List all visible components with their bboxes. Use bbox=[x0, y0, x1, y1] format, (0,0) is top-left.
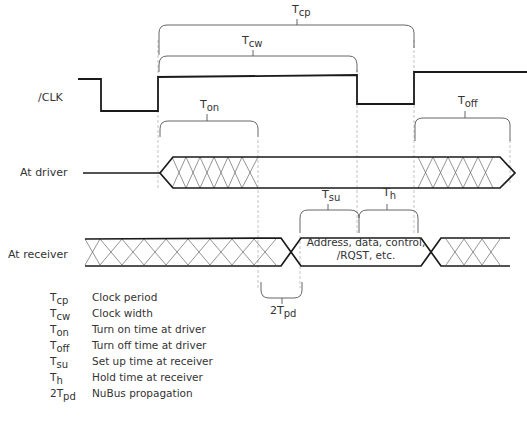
legend-desc: Clock period bbox=[92, 291, 157, 303]
legend-row: TsuSet up time at receiver bbox=[50, 355, 213, 371]
legend-row: TcwClock width bbox=[50, 307, 213, 323]
tcw-brace bbox=[159, 56, 357, 72]
tcp-brace bbox=[159, 25, 414, 55]
tpd-brace bbox=[261, 282, 302, 298]
legend-desc: Turn on time at driver bbox=[92, 323, 206, 335]
signal-label-receiver: At receiver bbox=[8, 248, 68, 261]
label-tsu: Tsu bbox=[322, 188, 340, 201]
legend-row: TonTurn on time at driver bbox=[50, 323, 213, 339]
driver-bus bbox=[160, 157, 515, 188]
legend-desc: Hold time at receiver bbox=[92, 371, 203, 383]
legend-desc: Turn off time at driver bbox=[92, 339, 206, 351]
legend: TcpClock period TcwClock width TonTurn o… bbox=[50, 291, 213, 403]
bus-data-label: Address, data, control, /RQST, etc. bbox=[296, 236, 436, 262]
label-th: Th bbox=[383, 186, 396, 199]
bus-text-line-1: Address, data, control, bbox=[296, 236, 436, 249]
label-ton: Ton bbox=[200, 98, 219, 111]
label-toff: Toff bbox=[458, 94, 478, 107]
signal-label-driver: At driver bbox=[20, 166, 68, 179]
legend-row: TcpClock period bbox=[50, 291, 213, 307]
label-tpd: 2Tpd bbox=[270, 304, 296, 317]
toff-brace bbox=[415, 118, 510, 141]
legend-desc: NuBus propagation bbox=[92, 387, 193, 399]
legend-desc: Set up time at receiver bbox=[92, 355, 213, 367]
legend-row: 2TpdNuBus propagation bbox=[50, 387, 213, 403]
th-brace bbox=[359, 210, 418, 233]
legend-row: ToffTurn off time at driver bbox=[50, 339, 213, 355]
bus-text-line-2: /RQST, etc. bbox=[296, 249, 436, 262]
legend-desc: Clock width bbox=[92, 307, 153, 319]
signal-label-clk: /CLK bbox=[38, 91, 63, 104]
tsu-brace bbox=[300, 210, 359, 233]
ton-brace bbox=[160, 121, 258, 137]
label-tcw: Tcw bbox=[242, 34, 262, 47]
label-tcp: Tcp bbox=[292, 3, 311, 16]
legend-row: ThHold time at receiver bbox=[50, 371, 213, 387]
